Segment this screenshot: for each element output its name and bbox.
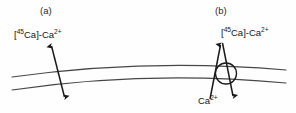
element-symbol: Ca <box>198 95 210 106</box>
bracket-close: ]-Ca <box>36 29 54 40</box>
membrane-transport-figure: (a) (b) [45Ca]-Ca2+ [45Ca]-Ca2+ Ca2+ <box>0 0 296 113</box>
panel-b-species-label: [45Ca]-Ca2+ <box>221 28 269 38</box>
bracket-close: ]-Ca <box>243 27 261 38</box>
membrane <box>12 65 286 90</box>
panel-label-b: (b) <box>215 6 227 16</box>
element-symbol: Ca <box>231 27 243 38</box>
panel-b-calcium-ion-label: Ca2+ <box>198 96 218 106</box>
panel-label-a: (a) <box>40 6 52 16</box>
mass-number: 45 <box>17 28 24 35</box>
figure-graphics-layer <box>0 0 296 113</box>
membrane-inner-leaflet <box>12 78 286 90</box>
panel-b-efflux-arrow <box>223 43 234 96</box>
panel-b-influx-arrow <box>210 45 221 99</box>
mass-number: 45 <box>224 26 231 33</box>
panel-a-species-label: [45Ca]-Ca2+ <box>14 30 62 40</box>
ionic-charge: 2+ <box>261 26 269 33</box>
ionic-charge: 2+ <box>210 94 218 101</box>
ionic-charge: 2+ <box>54 28 62 35</box>
membrane-outer-leaflet <box>12 65 286 77</box>
element-symbol: Ca <box>24 29 36 40</box>
